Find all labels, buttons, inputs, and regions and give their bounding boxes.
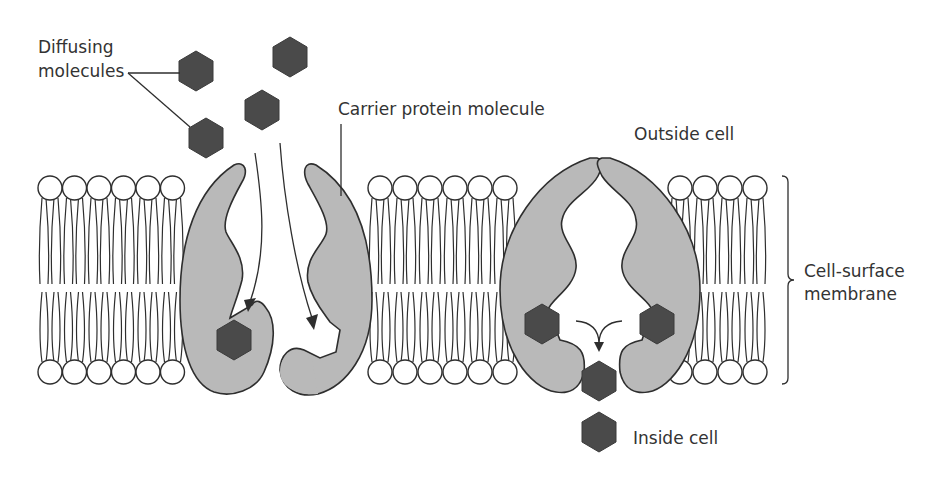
label-diffusing-1: Diffusing xyxy=(38,37,113,57)
lipid-bilayer-left xyxy=(38,176,185,384)
inside-molecules xyxy=(582,361,616,452)
lipid-bilayer-middle xyxy=(368,176,517,384)
diagram-canvas: Diffusing molecules Carrier protein mole… xyxy=(0,0,942,478)
membrane-brace xyxy=(782,176,794,384)
label-membrane-2: membrane xyxy=(804,284,897,304)
release-arrow xyxy=(576,321,622,352)
label-inside-cell: Inside cell xyxy=(633,428,718,448)
label-carrier-protein: Carrier protein molecule xyxy=(338,99,545,119)
label-outside-cell: Outside cell xyxy=(634,124,734,144)
label-membrane-1: Cell-surface xyxy=(804,261,905,281)
carrier-protein-open xyxy=(180,164,372,395)
label-diffusing-2: molecules xyxy=(38,61,124,81)
outside-molecules xyxy=(179,37,307,158)
